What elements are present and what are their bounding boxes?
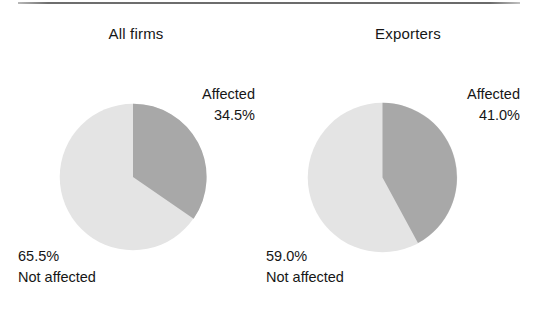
callout-affected-label: Affected	[467, 84, 520, 105]
callout-affected-value: 41.0%	[467, 105, 520, 126]
callout-affected-all-firms: Affected 34.5%	[202, 84, 255, 126]
callout-not-affected-all-firms: 65.5% Not affected	[18, 246, 96, 288]
pie-svg-exporters	[306, 102, 459, 253]
callout-not-affected-value: 59.0%	[266, 246, 344, 267]
pie-chart-all-firms	[58, 103, 208, 251]
callout-affected-value: 34.5%	[202, 105, 255, 126]
panel-title-all-firms: All firms	[0, 25, 272, 43]
pie-svg-all-firms	[58, 103, 208, 251]
pie-chart-figure: All firms Affected 34.5% 65.5% Not affec…	[0, 0, 544, 319]
callout-not-affected-exporters: 59.0% Not affected	[266, 246, 344, 288]
callout-not-affected-value: 65.5%	[18, 246, 96, 267]
callout-not-affected-label: Not affected	[18, 267, 96, 288]
callout-affected-label: Affected	[202, 84, 255, 105]
callout-not-affected-label: Not affected	[266, 267, 344, 288]
panel-title-exporters: Exporters	[272, 25, 544, 43]
top-divider-rule	[18, 2, 520, 4]
pie-chart-exporters	[306, 102, 459, 253]
callout-affected-exporters: Affected 41.0%	[467, 84, 520, 126]
